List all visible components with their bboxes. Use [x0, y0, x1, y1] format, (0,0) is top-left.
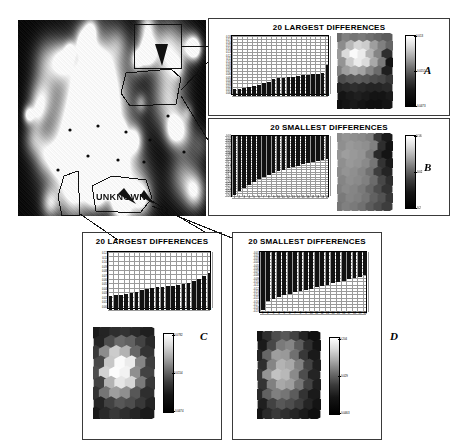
hex-grid	[337, 33, 393, 109]
colorbar-tick-label: 0.0782	[174, 333, 183, 337]
bar	[306, 136, 310, 163]
gridline-horizontal	[108, 261, 210, 262]
plot-area: -0.01-0.02-0.03-0.04-0.05-0.06-0.07-0.08…	[259, 251, 367, 313]
bar	[282, 78, 286, 96]
plot-area: -0.01-0.02-0.03-0.04-0.05-0.06-0.07-0.08…	[231, 135, 329, 197]
bar	[311, 74, 315, 96]
panel-d-bar-chart: -0.01-0.02-0.03-0.04-0.05-0.06-0.07-0.08…	[259, 251, 367, 313]
colorbar-tick-label: -0.0473	[416, 104, 426, 108]
x-axis-tick-label: 18	[353, 313, 356, 316]
x-axis-tick-label: 18	[316, 197, 319, 200]
gridline-horizontal	[232, 71, 328, 72]
bar	[192, 281, 196, 310]
panel-c-bar-chart: 0.120.110.100.090.080.070.060.050.040.03…	[107, 251, 211, 309]
x-axis-tick-label: 7	[263, 197, 264, 200]
hex-grid	[93, 327, 155, 419]
bar	[363, 252, 367, 275]
bar	[301, 75, 305, 96]
y-axis-tick-label: -0.26	[225, 196, 232, 199]
x-axis-tick-label: 13	[326, 313, 329, 316]
bar	[130, 293, 134, 310]
bar	[135, 292, 139, 310]
y-axis-tick-label: 0.08	[102, 271, 108, 274]
panel-a-title: 20 LARGEST DIFFERENCES	[209, 23, 449, 32]
gridline-horizontal	[108, 274, 210, 275]
y-axis-tick-label: 0.02	[102, 298, 108, 301]
bar	[161, 287, 165, 310]
plot-area: 0.120.110.100.090.080.070.060.050.040.03…	[107, 251, 211, 309]
colorbar-tick-label: -0.029	[340, 374, 348, 378]
bar	[321, 73, 325, 96]
gridline-horizontal	[232, 39, 328, 40]
x-axis-tick-label: 5	[253, 197, 254, 200]
bar	[311, 136, 315, 162]
x-axis-tick-label: 10	[310, 313, 313, 316]
x-axis-tick-label: 1	[234, 197, 235, 200]
bar	[267, 82, 271, 96]
gridline-vertical	[368, 252, 369, 312]
x-axis-tick-label: 5	[284, 313, 285, 316]
gridline-horizontal	[260, 294, 366, 295]
y-axis-tick-label: 0.10	[102, 262, 108, 265]
x-axis-tick-label: 20	[326, 197, 329, 200]
x-axis-tick-label: 2	[267, 313, 268, 316]
gridline-horizontal	[232, 58, 328, 59]
bar	[347, 252, 351, 279]
x-axis-tick-label: 8	[268, 197, 269, 200]
bar	[315, 252, 319, 287]
x-axis-tick-label: 17	[348, 313, 351, 316]
panel-letter-d: D	[390, 330, 398, 342]
panel-d-hex-map	[257, 331, 321, 419]
x-axis-tick-label: 15	[302, 197, 305, 200]
x-axis-tick-label: 11	[282, 197, 285, 200]
bar	[262, 83, 266, 96]
bar	[247, 136, 251, 185]
gridline-horizontal	[232, 191, 328, 192]
y-axis-tick-label: 0.11	[102, 257, 108, 260]
bar	[342, 252, 346, 281]
plot-area: 0.180.170.160.150.140.130.120.110.100.09…	[231, 35, 329, 95]
y-axis-tick-label: 0.03	[102, 293, 108, 296]
y-axis-tick-label: 0.12	[102, 253, 108, 256]
bar	[287, 136, 291, 168]
y-axis-tick-label: 0.05	[102, 284, 108, 287]
colorbar-tick-label: -0.0474	[174, 409, 184, 413]
gridline-horizontal	[108, 279, 210, 280]
panel-d-colorbar: 0.204-0.029-0.0463	[329, 337, 365, 415]
x-axis-tick-label: 12	[321, 313, 324, 316]
gridline-horizontal	[232, 68, 328, 69]
y-axis-tick-label: 0.09	[102, 266, 108, 269]
bar	[296, 136, 300, 166]
bar	[262, 136, 266, 177]
gridline-horizontal	[232, 42, 328, 43]
gridline-horizontal	[260, 298, 366, 299]
bar	[299, 252, 303, 291]
y-axis-tick-label: 0.01	[102, 302, 108, 305]
panel-b-hex-map	[337, 133, 393, 211]
colorbar-tick-label: 0.0154	[174, 371, 183, 375]
gridline-vertical	[330, 136, 331, 196]
bar	[326, 136, 330, 159]
bar	[156, 287, 160, 310]
bar	[331, 252, 335, 283]
gridline-horizontal	[232, 36, 328, 37]
bar	[277, 136, 281, 171]
panel-c-colorbar: 0.07820.0154-0.0474	[163, 333, 197, 413]
bar	[293, 252, 297, 292]
gridline-horizontal	[108, 265, 210, 266]
x-axis-tick-label: 20	[364, 313, 367, 316]
bar	[261, 252, 265, 310]
bar	[326, 252, 330, 285]
bar	[233, 136, 237, 195]
x-axis-tick-label: 12	[287, 197, 290, 200]
gridline-horizontal	[232, 45, 328, 46]
som-canvas	[18, 20, 206, 216]
panel-a: 20 LARGEST DIFFERENCES 0.180.170.160.150…	[208, 18, 450, 116]
x-axis-tick-label: 2	[239, 197, 240, 200]
bar	[277, 252, 281, 297]
bar	[242, 88, 246, 96]
colorbar-tick-label: -0.2	[416, 206, 421, 210]
x-axis-tick-label: 4	[278, 313, 279, 316]
x-axis-tick-label: 9	[273, 197, 274, 200]
x-axis-tick-label: 17	[311, 197, 314, 200]
